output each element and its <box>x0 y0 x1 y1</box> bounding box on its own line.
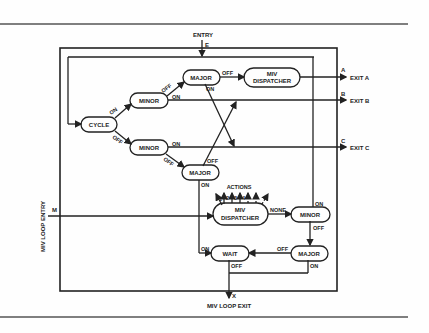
minor-right-label: MINOR <box>300 212 321 218</box>
exit-a-label: EXIT A <box>350 75 370 81</box>
major-top-label: MAJOR <box>190 75 212 81</box>
minor-right-on-label: ON <box>315 201 323 207</box>
entry-marker: E <box>205 42 209 48</box>
major-top-on-label: ON <box>206 86 214 92</box>
exit-b-marker: B <box>341 91 346 97</box>
dispatcher-none-label: NONE <box>270 207 286 213</box>
exit-a-marker: A <box>341 67 346 73</box>
exit-b-label: EXIT B <box>350 98 370 104</box>
exit-c-label: EXIT C <box>350 145 370 151</box>
minor-bottom-on-label: ON <box>172 141 180 147</box>
dispatcher-bottom-line2: DISPATCHER <box>221 215 260 221</box>
actions-label: ACTIONS <box>227 184 252 190</box>
major-mid-label: MAJOR <box>189 170 211 176</box>
entry-label: ENTRY <box>193 32 213 38</box>
loop-entry-label: MIV LOOP ENTRY <box>40 201 46 252</box>
action-4: 4 <box>242 195 246 201</box>
minor-bottom-label: MINOR <box>139 145 160 151</box>
major-mid-off-label: OFF <box>207 158 219 164</box>
major-right-on-label: ON <box>310 263 318 269</box>
action-3: 3 <box>234 195 237 201</box>
wait-off-label: OFF <box>231 263 243 269</box>
cycle-label: CYCLE <box>89 122 109 128</box>
major-right-label: MAJOR <box>298 251 320 257</box>
miv-loop-flow-diagram: CYCLE MINOR MINOR MAJOR MAJOR MIV DISPAT… <box>0 0 429 333</box>
major-right-off-label: OFF <box>277 246 289 252</box>
exit-c-marker: C <box>341 138 346 144</box>
loop-exit-label: MIV LOOP EXIT <box>207 303 252 309</box>
minor-top-on-label: ON <box>172 94 180 100</box>
loop-exit-marker: X <box>232 293 236 299</box>
minor-right-off-label: OFF <box>313 225 325 231</box>
cycle-on-label: ON <box>108 106 118 116</box>
action-1: 1 <box>219 196 222 202</box>
wait-label: WAIT <box>223 251 238 257</box>
cycle-off-label: OFF <box>111 134 124 146</box>
dispatcher-bottom-line1: MIV <box>235 207 246 213</box>
dispatcher-top-line1: MIV <box>267 71 278 77</box>
action-2: 2 <box>226 195 229 201</box>
minor-bottom-off-label: OFF <box>162 156 175 168</box>
major-mid-on-label: ON <box>201 182 209 188</box>
dispatcher-top-line2: DISPATCHER <box>253 78 292 84</box>
major-top-off-label: OFF <box>222 70 234 76</box>
wait-on-label: ON <box>201 246 209 252</box>
loop-entry-marker: M <box>52 207 57 213</box>
minor-top-label: MINOR <box>139 98 160 104</box>
